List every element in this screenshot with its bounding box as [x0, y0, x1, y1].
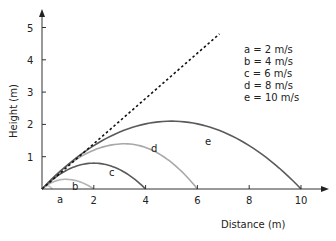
x-tick-label: 10: [295, 195, 308, 206]
y-axis-label: Height (m): [8, 84, 19, 138]
x-ticks: 246810: [91, 185, 308, 206]
legend-item-e: e = 10 m/s: [244, 92, 299, 103]
legend-item-d: d = 8 m/s: [244, 80, 293, 91]
legend-item-a: a = 2 m/s: [244, 44, 293, 55]
x-tick-label: 6: [194, 195, 200, 206]
legend-item-c: c = 6 m/s: [244, 68, 292, 79]
curve-label-a: a: [57, 194, 63, 205]
y-tick-label: 3: [27, 87, 33, 98]
launch-direction-dashed-line: [42, 34, 219, 189]
legend: a = 2 m/s b = 4 m/s c = 6 m/s d = 8 m/s …: [244, 44, 299, 103]
y-tick-label: 4: [27, 55, 33, 66]
legend-item-b: b = 4 m/s: [244, 56, 293, 67]
x-tick-label: 4: [142, 195, 148, 206]
y-tick-label: 2: [27, 119, 33, 130]
curve-label-c: c: [109, 167, 115, 178]
y-ticks: 12345: [27, 23, 46, 163]
curve-label-b: b: [72, 181, 78, 192]
curve-label-d: d: [151, 143, 157, 154]
y-tick-label: 5: [27, 23, 33, 34]
y-axis-arrow-icon: [39, 9, 45, 17]
x-tick-label: 8: [246, 195, 252, 206]
x-axis-arrow-icon: [321, 186, 329, 192]
x-axis-label: Distance (m): [221, 219, 286, 230]
curve-label-e: e: [205, 136, 211, 147]
y-tick-label: 1: [27, 152, 33, 163]
projectile-chart: 12345 246810 Distance (m) Height (m) a =…: [0, 0, 336, 241]
x-tick-label: 2: [91, 195, 97, 206]
